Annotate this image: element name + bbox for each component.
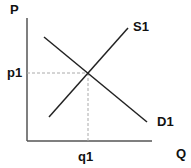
y-axis-label: P bbox=[10, 3, 19, 16]
demand-label: D1 bbox=[157, 115, 174, 128]
demand-curve bbox=[44, 37, 147, 122]
supply-label: S1 bbox=[133, 20, 149, 33]
x-axis-label: Q bbox=[176, 147, 186, 160]
price-label: p1 bbox=[7, 66, 22, 79]
supply-demand-chart bbox=[0, 0, 191, 168]
quantity-label: q1 bbox=[78, 150, 93, 163]
